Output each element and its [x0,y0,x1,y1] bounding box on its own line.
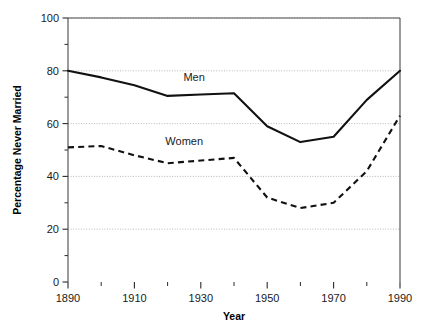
series-label-men: Men [183,71,204,83]
y-tick-label-20: 20 [47,223,59,235]
x-tick-label-1930: 1930 [189,292,213,304]
x-tick-label-1990: 1990 [388,292,412,304]
y-axis-title: Percentage Never Married [11,85,23,215]
series-label-women: Women [165,135,203,147]
x-axis-title: Year [223,310,245,322]
chart-background [0,0,429,328]
y-tick-label-80: 80 [47,65,59,77]
y-tick-label-40: 40 [47,170,59,182]
x-tick-label-1950: 1950 [255,292,279,304]
x-tick-label-1890: 1890 [56,292,80,304]
x-tick-label-1910: 1910 [122,292,146,304]
chart-container: 020406080100 189019101930195019701990 Me… [0,0,429,328]
x-tick-label-1970: 1970 [321,292,345,304]
y-tick-label-100: 100 [41,12,59,24]
never-married-line-chart: 020406080100 189019101930195019701990 Me… [0,0,429,328]
y-tick-label-60: 60 [47,118,59,130]
y-tick-label-0: 0 [53,276,59,288]
